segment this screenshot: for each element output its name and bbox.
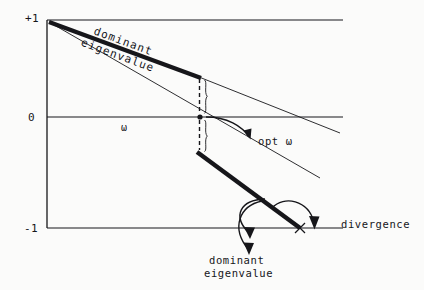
opt-omega-arrow (206, 117, 252, 140)
thin-line-upper-continuation (199, 77, 340, 133)
x-axis-omega-label: ω (121, 122, 127, 133)
y-axis-label-zero: 0 (28, 111, 35, 124)
optimal-omega-dot (197, 114, 202, 119)
opt-omega-label: opt ω (258, 135, 293, 147)
divergence-left-arrow-head-icon (244, 227, 255, 239)
brace-upper-icon (205, 80, 208, 113)
dominant-branch-lower (197, 152, 300, 228)
y-axis-label-minus-one: -1 (24, 222, 38, 235)
dominant-eigenvalue-branches (49, 22, 300, 228)
figure-canvas: +1 0 -1 ω dominant eigenvalue opt ω dive… (0, 0, 424, 290)
opt-omega-arrow-curve (206, 117, 249, 137)
dominant-branch-upper (49, 22, 201, 78)
brace-lower-icon (205, 120, 208, 152)
brace-group (205, 80, 208, 152)
y-axis-label-plus-one: +1 (25, 12, 39, 25)
lower-dominant-eigenvalue-line2: eigenvalue (204, 267, 273, 279)
opt-omega-arrow-head-icon (244, 129, 252, 140)
lower-dominant-eigenvalue-line1: dominant (209, 254, 264, 266)
eigenvalue-figure: +1 0 -1 ω dominant eigenvalue opt ω dive… (0, 0, 424, 290)
divergence-label: divergence (341, 218, 410, 230)
